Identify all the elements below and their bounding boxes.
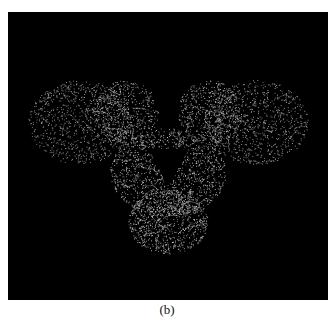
molecular-mesh-image — [8, 12, 328, 300]
figure-panel — [8, 12, 328, 300]
figure-caption: (b) — [0, 302, 334, 318]
